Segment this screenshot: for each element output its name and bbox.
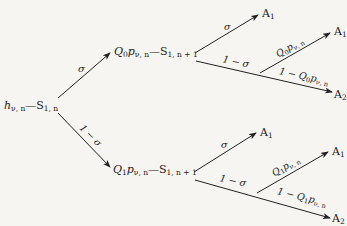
edge-root-upper: [58, 53, 110, 98]
edge-label-sigma: σ: [78, 64, 85, 74]
lower-down-target: A2: [332, 213, 345, 226]
lower-node: Q1pν, n—S1, n + 1: [113, 164, 197, 177]
root-node: hν, n—S1, n: [4, 100, 58, 113]
upper-up-target: A1: [334, 26, 347, 39]
lower-up-target: A1: [332, 146, 345, 159]
lower-sigma-target: A1: [260, 127, 273, 140]
upper-sigma-target: A1: [262, 8, 275, 21]
upper-node: Q0pν, n—S1, n + 1: [114, 46, 198, 59]
lower-sigma-label: σ: [221, 140, 228, 150]
upper-sigma-label: σ: [224, 22, 231, 32]
upper-down-target: A2: [334, 89, 347, 102]
